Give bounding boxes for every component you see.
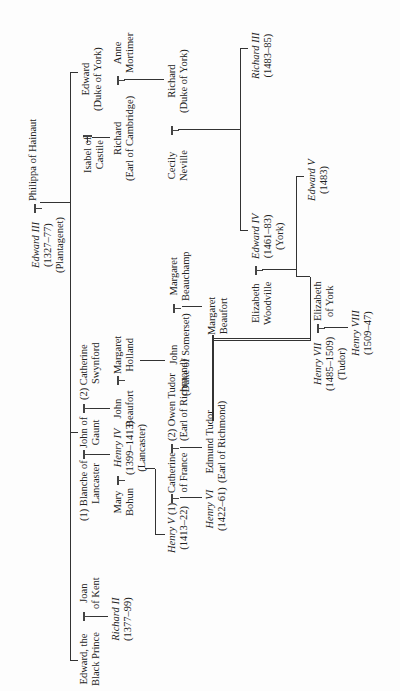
descent-line xyxy=(240,230,248,231)
person-anne-mortimer: Anne Mortimer xyxy=(112,33,136,73)
person-edward-v: Edward V (1483) xyxy=(306,159,330,201)
line1: Elizabeth xyxy=(250,282,262,325)
descent-line xyxy=(182,306,202,307)
descent-line xyxy=(324,327,348,328)
name: Henry VI xyxy=(204,487,216,531)
house: (York) xyxy=(274,214,286,259)
descent-line xyxy=(240,48,248,49)
marriage-symbol xyxy=(171,494,178,503)
line1: Edmund Tudor xyxy=(204,401,216,483)
sibling-line xyxy=(296,177,297,277)
line2: Black Prince xyxy=(90,632,102,686)
name: Philippa of Hainaut xyxy=(27,119,39,201)
line1: Margaret xyxy=(112,336,124,374)
name: Henry IV xyxy=(112,421,124,475)
person-edmund-tudor: Edmund Tudor (Earl of Richmond) xyxy=(204,401,228,483)
descent-line xyxy=(90,616,108,617)
person-cecily-neville: Cecily Neville xyxy=(166,150,190,181)
dates: (1413–22) xyxy=(178,503,190,553)
line1: Catherine xyxy=(78,344,89,385)
line2: Holland xyxy=(124,336,136,374)
family-tree-page: Edward III (1327–77) (Plantagenet) Phili… xyxy=(0,0,400,691)
dates: (1377–99) xyxy=(122,597,134,641)
line1: Joan xyxy=(78,577,90,609)
marriage-number: (2) xyxy=(166,429,177,441)
person-catherine-of-france: Catherine of France xyxy=(166,452,190,493)
marriage-symbol xyxy=(317,324,324,333)
descent-line xyxy=(214,338,310,339)
descent-line xyxy=(92,137,110,138)
line2: Mortimer xyxy=(124,33,136,73)
line2: (Earl of Richmond) xyxy=(216,401,228,483)
person-john-of-gaunt: John of Gaunt xyxy=(78,417,102,448)
line2: of York xyxy=(324,281,336,321)
name: Henry VII xyxy=(312,337,324,391)
dates: (1509–47) xyxy=(362,310,374,356)
line2: Neville xyxy=(178,150,190,181)
line1: Catherine xyxy=(166,452,178,493)
line1: Richard xyxy=(112,96,124,181)
dates: (1399–1413) xyxy=(124,421,136,475)
person-margaret-holland: Margaret Holland xyxy=(112,336,136,374)
line2: of France xyxy=(178,452,190,493)
line2: (Earl of Cambridge) xyxy=(124,96,136,181)
marriage-symbol xyxy=(255,266,262,275)
line2: Beaufort xyxy=(124,390,136,427)
descent-line xyxy=(155,534,165,535)
line2: Beaufort xyxy=(218,297,230,335)
marriage-symbol xyxy=(171,444,178,453)
dates: (1483–85) xyxy=(262,32,274,79)
marriage-number: (1) xyxy=(78,509,89,521)
line1: Margaret xyxy=(168,251,180,301)
descent-line xyxy=(40,202,70,203)
person-mary-bohun: Mary Bohun xyxy=(112,488,136,516)
line2: Woodville xyxy=(262,282,274,325)
descent-line xyxy=(310,277,311,341)
line2: (Duke of York) xyxy=(178,49,190,113)
descent-line xyxy=(214,340,310,341)
person-edward-iv: Edward IV (1461–83) (York) xyxy=(250,214,286,259)
person-philippa: Philippa of Hainaut xyxy=(27,119,39,243)
person-black-prince: Edward, the Black Prince xyxy=(78,632,102,686)
house: (Plantagenet) xyxy=(54,217,66,273)
dates: (1422–61) xyxy=(216,487,228,531)
descent-line xyxy=(296,276,310,277)
line1: John of xyxy=(78,417,90,448)
line1: John xyxy=(168,313,180,396)
descent-line xyxy=(155,469,156,535)
marriage-line xyxy=(212,335,214,421)
line2: Bohun xyxy=(124,488,136,516)
person-edward-duke-of-york: Edward (Duke of York) xyxy=(80,47,104,111)
descent-line xyxy=(70,660,78,661)
line1: John xyxy=(112,390,124,427)
person-richard-ii: Richard II (1377–99) xyxy=(110,597,134,641)
person-richard-earl-of-cambridge: Richard (Earl of Cambridge) xyxy=(112,96,136,181)
name: Richard II xyxy=(110,597,122,641)
house: (Lancaster) xyxy=(136,421,148,475)
marriage-symbol xyxy=(83,612,90,621)
person-richard-iii: Richard III (1483–85) xyxy=(250,32,274,79)
person-isabel-of-castile: Isabel of Castile xyxy=(82,137,106,173)
line1: Margaret xyxy=(206,297,218,335)
marriage-symbol xyxy=(117,376,124,385)
house: (Tudor) xyxy=(336,337,348,391)
dates: (1485–1509) xyxy=(324,337,336,391)
line1: Cecily xyxy=(166,150,178,181)
descent-line xyxy=(180,497,202,498)
descent-line xyxy=(296,176,304,177)
line1: Isabel of xyxy=(82,137,94,173)
descent-line xyxy=(178,129,240,130)
marriage-symbol xyxy=(171,126,178,135)
marriage-number: (2) xyxy=(78,388,89,400)
marriage-symbol xyxy=(83,450,90,459)
dates: (1327–77) xyxy=(42,217,54,273)
dates: (1461–83) xyxy=(262,214,274,259)
line2: Swynford xyxy=(90,343,102,400)
line1: Elizabeth xyxy=(312,281,324,321)
descent-line xyxy=(70,72,78,73)
line2: Lancaster xyxy=(90,460,102,521)
descent-line xyxy=(262,269,296,270)
person-margaret-beauchamp: Margaret Beauchamp xyxy=(168,251,192,301)
marriage-symbol xyxy=(83,404,90,413)
descent-line xyxy=(90,408,110,409)
